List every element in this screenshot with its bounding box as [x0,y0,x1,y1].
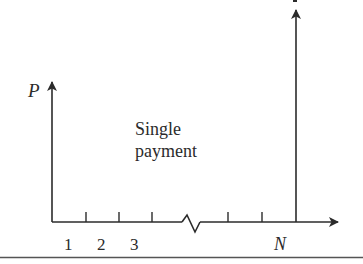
caption-line-2: payment [135,141,197,161]
period-label-2: 2 [97,235,106,254]
period-label-1: 1 [64,235,73,254]
caption-line-1: Single [135,119,181,139]
period-ticks [86,212,262,222]
axis-break-icon [182,215,200,232]
future-value-label-partial [293,0,297,2]
period-label-3: 3 [130,235,139,254]
present-value-label: P [27,80,40,101]
period-label-n: N [273,234,287,254]
cash-flow-diagram: P 1 2 3 N Single payment [0,0,363,264]
